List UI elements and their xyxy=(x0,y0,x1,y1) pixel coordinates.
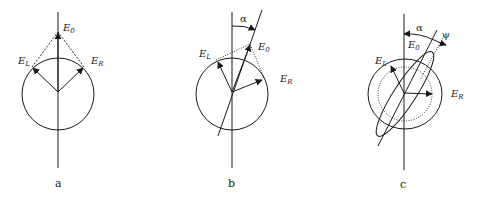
panel-caption-c: c xyxy=(400,178,406,191)
alpha-label: α xyxy=(416,22,423,33)
panel-a: E0 EL ER a xyxy=(17,12,104,190)
alpha-angle-arc xyxy=(232,26,255,30)
panel-b: α E0 EL ER b xyxy=(196,10,293,190)
el-vector-arrow xyxy=(33,68,58,92)
psi-label: ψ xyxy=(442,29,450,40)
er-label: ER xyxy=(90,55,104,68)
el-label: EL xyxy=(374,55,387,68)
polarization-diagram: E0 EL ER a α E0 EL ER b α ψ E0 EL xyxy=(0,0,478,197)
psi-angle-arc xyxy=(434,40,446,45)
tilted-axis-line xyxy=(218,10,262,136)
er-projection-dashed xyxy=(58,32,84,67)
er-vector-arrow xyxy=(404,93,432,94)
er-label: ER xyxy=(279,73,293,86)
alpha-label: α xyxy=(240,13,247,24)
panel-caption-a: a xyxy=(55,177,62,190)
panel-caption-b: b xyxy=(228,177,235,190)
er-vector-arrow xyxy=(58,68,83,92)
el-vector-arrow xyxy=(218,62,232,92)
el-label: EL xyxy=(198,48,211,61)
e0-label: E0 xyxy=(62,22,75,35)
e0-vector-arrow xyxy=(232,45,250,92)
e0-label: E0 xyxy=(407,39,420,52)
er-label: ER xyxy=(450,88,464,101)
el-label: EL xyxy=(17,55,30,68)
el-projection-dashed xyxy=(32,32,58,67)
panel-c: α ψ E0 EL ER c xyxy=(368,14,464,191)
e0-label: E0 xyxy=(257,41,270,54)
